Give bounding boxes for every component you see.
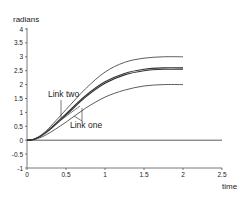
y-tick-label: -0.5 xyxy=(12,151,24,158)
y-tick-label: 1.5 xyxy=(14,95,23,102)
series-line xyxy=(27,69,183,140)
line-chart: -1-0.500.511.522.533.5400.511.522.5radia… xyxy=(0,0,246,200)
y-tick-label: 1 xyxy=(19,109,23,116)
y-tick-label: 0.5 xyxy=(14,123,23,130)
y-tick-label: 0 xyxy=(19,137,23,144)
y-tick-label: 2 xyxy=(19,81,23,88)
x-tick-label: 1.5 xyxy=(139,171,148,178)
x-tick-label: 0 xyxy=(25,171,29,178)
y-tick-label: 2.5 xyxy=(14,67,23,74)
x-tick-label: 1 xyxy=(103,171,107,178)
x-axis-label: time xyxy=(222,182,238,191)
y-axis-label: radians xyxy=(13,15,39,24)
annotation-link-two: Link two xyxy=(48,89,79,99)
y-tick-label: 3 xyxy=(19,53,23,60)
y-tick-label: -1 xyxy=(17,165,23,172)
x-tick-label: 2 xyxy=(181,171,185,178)
x-tick-label: 0.5 xyxy=(61,171,70,178)
y-tick-label: 4 xyxy=(19,26,23,33)
annotation-link-one: Link one xyxy=(70,120,102,130)
y-tick-label: 3.5 xyxy=(14,39,23,46)
x-tick-label: 2.5 xyxy=(217,171,226,178)
